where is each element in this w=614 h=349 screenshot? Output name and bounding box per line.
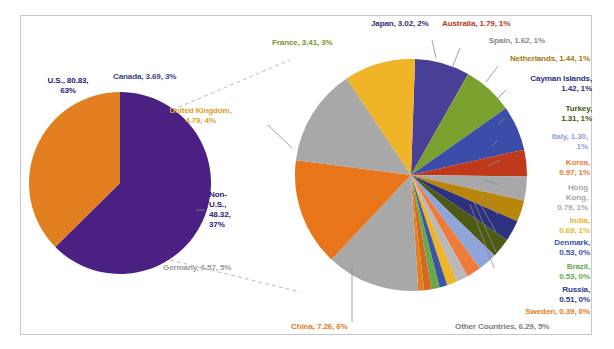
label-korea: Korea, 0.97, 1% — [470, 158, 590, 178]
label-hong-kong: Hong Kong, 0.79, 1% — [470, 183, 588, 213]
label-non-us: Non- U.S., 48.32, 37% — [209, 190, 231, 229]
label-germany: Germany, 6.57, 5% — [163, 263, 231, 273]
label-china: China, 7.26, 6% — [291, 322, 348, 332]
label-india: India, 0.69, 1% — [470, 216, 590, 236]
label-sweden: Sweden, 0.39, 0% — [420, 307, 590, 317]
label-brazil: Brazil, 0.53, 0% — [460, 262, 590, 282]
label-italy: Italy, 1.30, 1% — [470, 132, 588, 152]
label-us: U.S., 80.83, 63% — [18, 76, 118, 96]
label-japan: Japan, 3.02, 2% — [371, 19, 429, 29]
label-other-countries: Other Countries, 6.29, 5% — [455, 322, 549, 332]
chart-canvas: U.S., 80.83, 63% Non- U.S., 48.32, 37% C… — [0, 0, 614, 349]
label-australia: Australia, 1.79, 1% — [442, 19, 510, 29]
label-denmark: Denmark, 0.53, 0% — [460, 238, 590, 258]
label-france: France, 3.41, 3% — [272, 38, 333, 48]
label-united-kingdom: United Kingdom, 4.79, 4% — [148, 106, 253, 126]
label-turkey: Turkey, 1.31, 1% — [470, 104, 592, 124]
label-canada: Canada, 3.69, 3% — [113, 72, 176, 82]
label-spain: Spain, 1.62, 1% — [400, 36, 545, 46]
label-russia: Russia, 0.51, 0% — [460, 285, 590, 305]
label-cayman-islands: Cayman Islands, 1.42, 1% — [430, 74, 592, 94]
label-netherlands: Netherlands, 1.44, 1% — [400, 54, 590, 64]
